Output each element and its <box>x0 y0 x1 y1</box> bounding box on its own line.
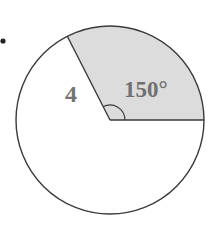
angle-label: 150° <box>124 77 168 102</box>
shaded-sector <box>67 26 204 120</box>
radius-label: 4 <box>65 81 77 107</box>
diagram-canvas: 4 150° <box>0 0 222 227</box>
circle-sector-diagram: 4 150° <box>0 0 222 227</box>
bullet-dot <box>0 38 5 43</box>
